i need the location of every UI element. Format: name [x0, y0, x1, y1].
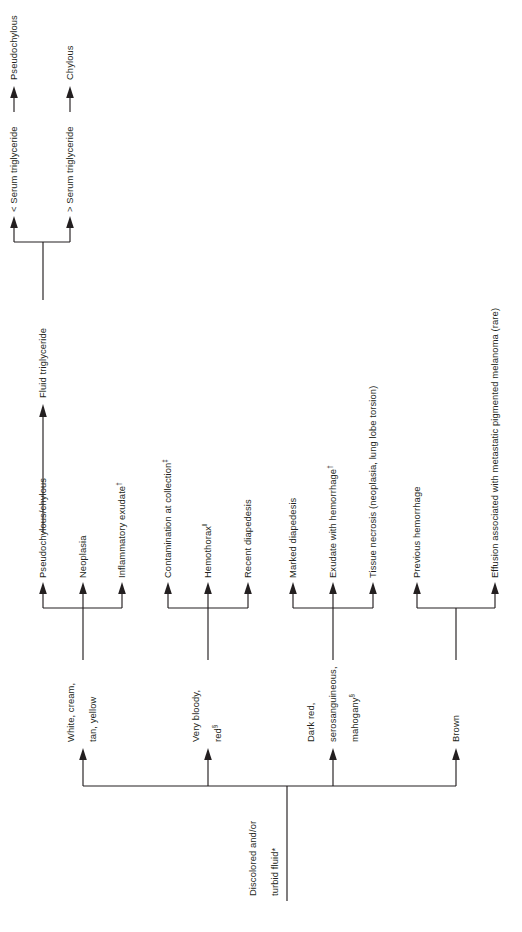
label-neoplasia: Neoplasia: [78, 535, 87, 578]
arrowhead-greater-than-serum: [66, 216, 74, 228]
label-exudate-with-hemorrhage: Exudate with hemorrhage†: [328, 465, 337, 578]
label-inflammatory-exudate-text: Inflammatory exudate: [116, 486, 127, 578]
label-very-bloody-line2: red§: [213, 724, 222, 742]
flowchart-diagram: Pseudochylous Chylous < Serum triglyceri…: [0, 0, 522, 932]
label-fluid-triglyceride: Fluid triglyceride: [38, 328, 47, 398]
footnote-marker-double-dagger: ‡: [161, 459, 168, 463]
footnote-marker-dagger: †: [115, 482, 122, 486]
label-hemothorax-text: Hemothorax: [202, 526, 213, 578]
arrowhead-pseudochylous-result: [10, 86, 18, 98]
label-root-line2: turbid fluid*: [270, 848, 279, 896]
label-very-bloody-line1: Very bloody,: [191, 690, 200, 742]
arrowhead-dark-red: [329, 748, 337, 760]
arrowhead-tissue-necrosis: [369, 582, 377, 594]
arrowhead-previous-hemorrhage: [413, 582, 421, 594]
arrowhead-fluid-triglyceride: [39, 404, 47, 417]
label-previous-hemorrhage: Previous hemorrhage: [412, 486, 421, 578]
label-hemothorax: Hemothorax‖: [203, 523, 212, 578]
arrowhead-inflammatory-exudate: [118, 582, 126, 594]
arrowhead-recent-diapedesis: [244, 582, 252, 594]
arrowhead-very-bloody: [204, 748, 212, 760]
label-pseudochylous-result: Pseudochylous: [9, 15, 18, 80]
label-inflammatory-exudate: Inflammatory exudate†: [117, 482, 126, 578]
label-dark-red-line3: mahogany§: [350, 694, 359, 742]
arrowhead-hemothorax: [204, 582, 212, 594]
label-greater-than-serum-triglyceride: > Serum triglyceride: [65, 126, 74, 212]
label-dark-red-line1: Dark red,: [306, 703, 315, 742]
label-white-cream-line2: tan, yellow: [88, 697, 97, 742]
label-recent-diapedesis: Recent diapedesis: [243, 499, 252, 578]
flowchart-connectors: [0, 0, 522, 932]
footnote-marker-dagger-2: †: [326, 465, 333, 469]
arrowhead-melanoma-effusion: [491, 582, 499, 594]
arrowhead-chylous-result: [66, 86, 74, 98]
arrowhead-less-than-serum: [10, 216, 18, 228]
label-dark-red-line2: serosanguineous,: [328, 666, 337, 742]
label-contamination-text: Contamination at collection: [162, 463, 173, 578]
label-contamination-at-collection: Contamination at collection‡: [163, 459, 172, 578]
arrowhead-exudate-hemorrhage: [329, 582, 337, 594]
label-pseudochylous-chylous: Pseudochylous/chylous: [38, 478, 47, 578]
footnote-marker-section-2: §: [348, 694, 355, 698]
footnote-marker-parallel: ‖: [201, 523, 208, 526]
arrowhead-pseudochylous-chylous: [39, 582, 47, 594]
arrowhead-brown: [452, 748, 460, 760]
arrowhead-white-cream: [79, 748, 87, 760]
label-marked-diapedesis: Marked diapedesis: [288, 498, 297, 578]
label-red-text: red: [212, 728, 223, 742]
label-exudate-hemorrhage-text: Exudate with hemorrhage: [327, 469, 338, 578]
arrowhead-marked-diapedesis: [289, 582, 297, 594]
label-less-than-serum-triglyceride: < Serum triglyceride: [9, 126, 18, 212]
arrowhead-contamination: [164, 582, 172, 594]
label-white-cream-line1: White, cream,: [66, 683, 75, 742]
label-chylous-result: Chylous: [65, 45, 74, 80]
arrowhead-neoplasia: [79, 582, 87, 594]
label-tissue-necrosis: Tissue necrosis (neoplasia, lung lobe to…: [368, 386, 377, 578]
label-melanoma-effusion: Effusion associated with metastatic pigm…: [490, 308, 499, 578]
footnote-marker-section: §: [211, 724, 218, 728]
label-brown: Brown: [451, 715, 460, 742]
label-root-line1: Discolored and/or: [248, 821, 257, 896]
label-mahogany-text: mahogany: [349, 697, 360, 742]
